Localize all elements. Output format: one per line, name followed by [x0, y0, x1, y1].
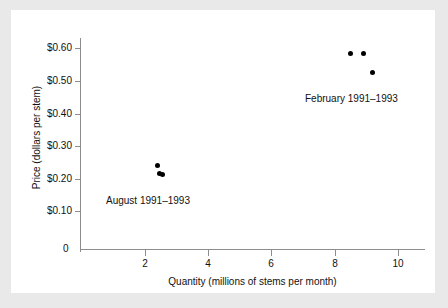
y-tick-mark	[75, 146, 81, 147]
x-axis-line	[80, 249, 425, 250]
y-tick-label: $0.10	[47, 206, 72, 216]
y-tick-label: $0.40	[47, 109, 72, 119]
annotation-february: February 1991–1993	[305, 93, 398, 104]
origin-tick-label: 0	[63, 244, 69, 254]
x-axis-title: Quantity (millions of stems per month)	[80, 276, 425, 287]
y-tick-mark	[75, 114, 81, 115]
data-point	[160, 172, 165, 177]
y-tick-label: $0.60	[47, 43, 72, 53]
y-tick-mark	[75, 179, 81, 180]
data-point	[361, 51, 366, 56]
y-tick-label: $0.20	[47, 174, 72, 184]
data-point	[348, 51, 353, 56]
y-axis-title: Price (dollars per stem)	[31, 58, 42, 218]
scatter-plot: $0.60 $0.50 $0.40 $0.30 $0.20 $0.10 0 2 …	[11, 10, 435, 293]
x-tick-mark	[208, 250, 209, 256]
y-tick-mark	[75, 81, 81, 82]
x-tick-label: 2	[133, 259, 157, 269]
x-tick-mark	[271, 250, 272, 256]
chart-card: $0.60 $0.50 $0.40 $0.30 $0.20 $0.10 0 2 …	[11, 10, 435, 293]
x-tick-mark	[398, 250, 399, 256]
y-tick-label: $0.50	[47, 76, 72, 86]
x-tick-mark	[335, 250, 336, 256]
x-tick-label: 6	[259, 259, 283, 269]
data-point	[155, 163, 160, 168]
y-tick-label: $0.30	[47, 141, 72, 151]
x-tick-label: 8	[323, 259, 347, 269]
data-point	[370, 70, 375, 75]
y-tick-mark	[75, 48, 81, 49]
y-tick-mark	[75, 211, 81, 212]
x-tick-label: 4	[196, 259, 220, 269]
annotation-august: August 1991–1993	[106, 195, 190, 206]
x-tick-label: 10	[386, 259, 410, 269]
figure-canvas: $0.60 $0.50 $0.40 $0.30 $0.20 $0.10 0 2 …	[0, 0, 448, 308]
y-axis-line	[80, 38, 81, 252]
x-tick-mark	[145, 250, 146, 256]
